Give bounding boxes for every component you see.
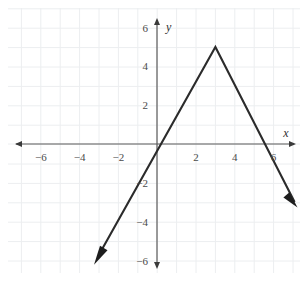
- x-tick-label: −4: [74, 151, 86, 163]
- grid-lines: [8, 8, 300, 273]
- y-tick-label: −2: [136, 177, 148, 189]
- y-tick-label: 4: [143, 60, 149, 72]
- absolute-value-curve: [101, 47, 294, 251]
- curve-arrow-right-icon: [283, 192, 297, 207]
- y-axis-arrow-bottom-icon: [154, 262, 160, 269]
- y-tick-label: 2: [143, 99, 149, 111]
- x-axis-arrow-left-icon: [15, 141, 22, 147]
- y-tick-label: −4: [136, 216, 148, 228]
- y-tick-label: 6: [143, 22, 149, 34]
- graph-canvas: −6 −4 −2 2 4 6 6 4 2 −2 −4 −6 x y: [0, 0, 306, 281]
- graph-figure: −6 −4 −2 2 4 6 6 4 2 −2 −4 −6 x y: [0, 0, 306, 281]
- x-tick-label: 6: [271, 151, 277, 163]
- curve-arrow-left-icon: [94, 246, 108, 265]
- y-tick-label: −6: [136, 255, 148, 267]
- y-axis-arrow-top-icon: [154, 18, 160, 25]
- x-tick-label: 4: [232, 151, 238, 163]
- y-axis-label: y: [165, 20, 172, 34]
- x-tick-label: 2: [193, 151, 199, 163]
- x-tick-label: −2: [113, 151, 125, 163]
- x-axis-label: x: [282, 126, 289, 140]
- x-tick-label: −6: [35, 151, 47, 163]
